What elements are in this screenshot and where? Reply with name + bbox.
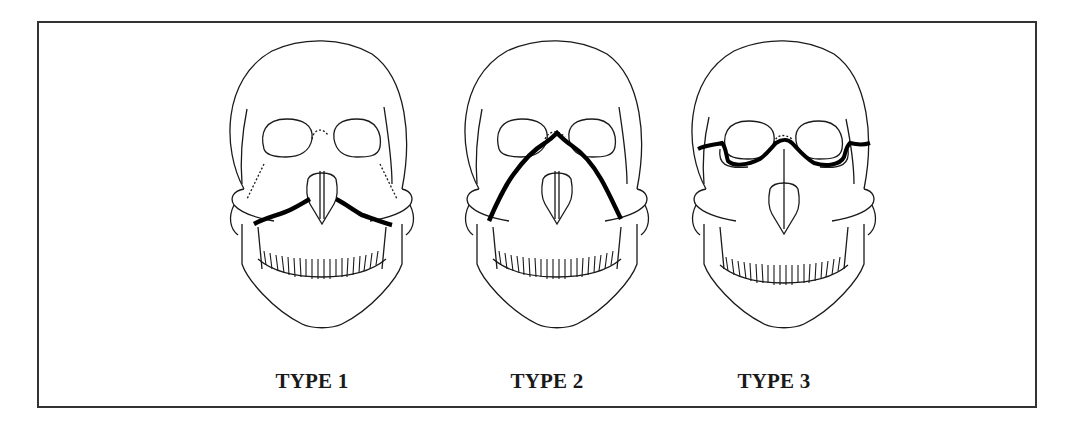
panel-type-1: TYPE 1 [202,39,422,339]
panel-label-type-2: TYPE 2 [511,369,584,394]
figure-frame: TYPE 1 TYPE 2 [37,21,1037,408]
panel-label-type-1: TYPE 1 [276,369,349,394]
skull-type-3-illustration [664,39,884,339]
skull-type-1-illustration [202,39,422,339]
panel-type-2: TYPE 2 [437,39,657,339]
skull-type-2-illustration [437,39,657,339]
panel-type-3: TYPE 3 [664,39,884,339]
panel-label-type-3: TYPE 3 [738,369,811,394]
